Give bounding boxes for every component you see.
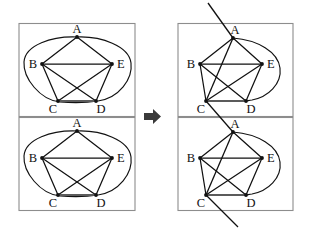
vertex-dot-e — [260, 156, 264, 160]
panel-right-bottom: A B E C D — [178, 117, 293, 211]
panel-right-top: A B E C D — [178, 23, 293, 117]
vertex-label-e: E — [267, 57, 275, 71]
vertex-dot-b — [40, 62, 44, 66]
vertex-label-a: A — [72, 22, 81, 36]
vertex-label-b: B — [29, 151, 37, 165]
vertex-label-a: A — [72, 116, 81, 130]
vertex-dot-e — [260, 62, 264, 66]
vertex-label-d: D — [96, 102, 105, 116]
vertex-label-b: B — [187, 151, 195, 165]
vertex-label-a: A — [230, 117, 239, 131]
vertex-label-d: D — [246, 102, 255, 116]
vertex-label-a: A — [230, 23, 239, 37]
vertex-label-e: E — [117, 57, 125, 71]
panel-right-bottom-frame — [178, 118, 293, 211]
transformation-arrow — [144, 109, 161, 124]
vertex-label-c: C — [197, 196, 205, 210]
panel-right-top-frame — [178, 24, 293, 117]
vertex-dot-b — [198, 62, 202, 66]
vertex-dot-b — [40, 156, 44, 160]
vertex-label-b: B — [29, 57, 37, 71]
vertex-label-e: E — [267, 151, 275, 165]
vertex-dot-e — [110, 62, 114, 66]
graph-figure-svg: A B E C D A B E C D — [0, 0, 309, 233]
vertex-label-c: C — [49, 196, 57, 210]
panel-left-top: A B E C D — [19, 22, 135, 117]
vertex-label-d: D — [246, 196, 255, 210]
vertex-label-e: E — [117, 151, 125, 165]
vertex-dot-e — [110, 156, 114, 160]
figure-canvas: A B E C D A B E C D — [0, 0, 309, 233]
vertex-label-d: D — [96, 196, 105, 210]
arrow-right-icon — [144, 109, 161, 124]
vertex-label-b: B — [187, 57, 195, 71]
vertex-label-c: C — [197, 102, 205, 116]
panel-left-bottom: A B E C D — [19, 116, 135, 211]
vertex-dot-b — [198, 156, 202, 160]
vertex-label-c: C — [49, 102, 57, 116]
